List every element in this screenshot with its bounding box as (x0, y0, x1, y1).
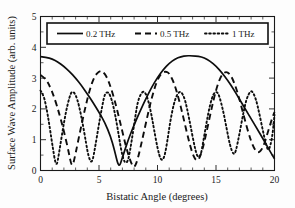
x-tick-label: 20 (270, 175, 280, 185)
y-tick-label: 1 (32, 135, 37, 145)
x-tick-label: 5 (97, 175, 102, 185)
chart-legend: 0.2 THz0.5 THz1 THz (47, 23, 268, 44)
y-tick-label: 4 (32, 43, 37, 53)
y-tick-label: 0 (32, 166, 37, 176)
legend-label: 1 THz (232, 29, 255, 39)
y-tick-label: 5 (32, 12, 37, 22)
x-tick-label: 0 (38, 175, 43, 185)
x-tick-label: 10 (153, 175, 163, 185)
y-axis-title: Surface Wave Amplitude (arb. units) (6, 16, 18, 170)
legend-label: 0.5 THz (160, 29, 189, 39)
legend-label: 0.2 THz (86, 29, 115, 39)
y-tick-label: 2 (32, 104, 37, 114)
figure-container: 05101520 012345 0.2 THz0.5 THz1 THz Bist… (0, 0, 295, 208)
x-tick-label: 15 (211, 175, 221, 185)
y-tick-label: 3 (32, 74, 37, 84)
line-chart: 05101520 012345 0.2 THz0.5 THz1 THz Bist… (0, 0, 295, 208)
x-axis-title: Bistatic Angle (degrees) (106, 191, 208, 203)
